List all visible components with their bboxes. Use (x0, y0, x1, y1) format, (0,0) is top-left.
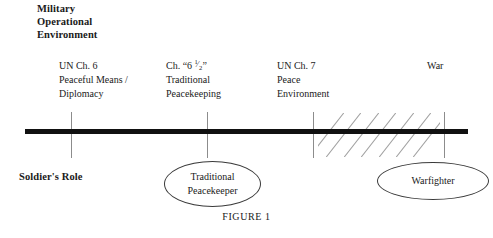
hatch-line (361, 113, 396, 157)
stage-label-line-fraction: Ch. “6 1⁄2” (166, 59, 221, 73)
hatch-line (378, 113, 413, 157)
role-row-title: Soldier's Role (19, 171, 83, 182)
stage-label-line: War (427, 59, 443, 73)
hatch-line (396, 113, 431, 157)
stage-label-un-ch-6: UN Ch. 6 Peaceful Means / Diplomacy (59, 59, 128, 101)
timeline-axis (25, 129, 468, 134)
stage-label-war: War (427, 59, 443, 73)
axis-tick-war (444, 112, 445, 158)
figure-diagram: Military Operational Environment UN Ch. … (0, 0, 493, 238)
role-ellipse-traditional-peacekeeper: Traditional Peacekeeper (164, 161, 261, 207)
hatch-line (344, 113, 379, 157)
stage-label-ch-six-and-a-half: Ch. “6 1⁄2” Traditional Peacekeeping (166, 59, 221, 101)
hatch-line (413, 113, 440, 157)
axis-title-military-operational-environment: Military Operational Environment (37, 2, 97, 42)
axis-tick-un-ch-6 (71, 112, 72, 158)
stage-label-un-ch-7: UN Ch. 7 Peace Environment (277, 59, 329, 101)
hatched-transition-zone (318, 113, 440, 157)
stage-label-line: UN Ch. 6 (59, 59, 128, 73)
axis-tick-ch-six-and-a-half (207, 112, 208, 158)
stage-label-line: Peace (277, 73, 329, 87)
axis-title-line-2: Operational (37, 15, 97, 28)
stage-label-line: Traditional (166, 73, 221, 87)
fraction-suffix: ” (203, 60, 207, 71)
fraction-one-half: 1⁄2 (195, 59, 203, 69)
role-ellipse-warfighter: Warfighter (377, 162, 489, 200)
axis-title-line-3: Environment (37, 28, 97, 41)
stage-label-line: Peacekeeping (166, 87, 221, 101)
stage-label-line: Environment (277, 87, 329, 101)
axis-tick-un-ch-7 (313, 112, 314, 158)
hatch-line (326, 113, 361, 157)
axis-title-line-1: Military (37, 2, 97, 15)
fraction-prefix: Ch. “6 (166, 60, 195, 71)
role-label-line: Traditional (190, 170, 234, 184)
fraction-denominator: 2 (199, 61, 202, 75)
stage-label-line: Diplomacy (59, 87, 128, 101)
stage-label-line: Peaceful Means / (59, 73, 128, 87)
figure-caption: FIGURE 1 (0, 211, 493, 222)
role-label-line: Warfighter (411, 174, 454, 188)
role-label-line: Peacekeeper (188, 184, 238, 198)
stage-label-line: UN Ch. 7 (277, 59, 329, 73)
